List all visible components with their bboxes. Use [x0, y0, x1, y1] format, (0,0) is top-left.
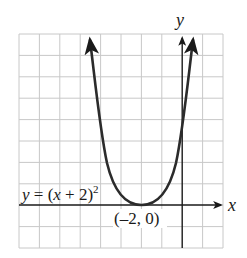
eq-rest: + 2)	[61, 185, 93, 204]
vertex-label: (–2, 0)	[114, 209, 159, 228]
eq-eq: = (	[30, 185, 54, 204]
eq-exponent: 2	[93, 183, 99, 195]
y-axis-label: y	[174, 10, 184, 30]
equation-label: y = (x + 2)2	[20, 183, 99, 204]
parabola-graph: y x y = (x + 2)2 (–2, 0)	[0, 0, 247, 258]
eq-y: y	[20, 185, 30, 204]
x-axis-label: x	[227, 195, 236, 215]
